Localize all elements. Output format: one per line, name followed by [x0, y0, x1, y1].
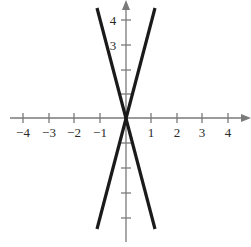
- y-tick-label-3: 3: [110, 38, 117, 53]
- y-tick-labels: 4 3: [110, 13, 117, 53]
- x-tick-label: 4: [225, 125, 232, 140]
- y-tick-label-4: 4: [110, 13, 117, 28]
- x-tick-label: 2: [174, 125, 181, 140]
- x-axis-arrow-icon: [241, 114, 251, 122]
- x-tick-label: −2: [67, 125, 81, 140]
- x-tick-label: −3: [42, 125, 56, 140]
- x-axis: [10, 113, 251, 123]
- x-tick-label: −4: [16, 125, 30, 140]
- x-tick-label: −1: [93, 125, 107, 140]
- y-axis-arrow-icon: [122, 0, 130, 10]
- x-tick-label: 1: [148, 125, 155, 140]
- coordinate-graph: −4 −3 −2 −1 1 2 3 4 4 3: [0, 0, 251, 247]
- x-tick-label: 3: [199, 125, 206, 140]
